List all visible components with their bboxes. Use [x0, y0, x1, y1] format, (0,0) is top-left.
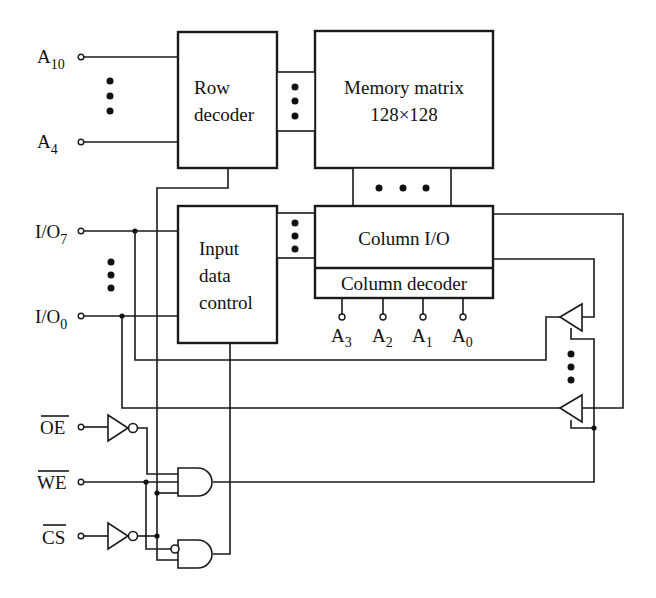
output-buffer-io0 [560, 395, 582, 422]
memory-matrix-label-1: Memory matrix [344, 77, 464, 98]
and-gate-read [178, 468, 212, 496]
pin-a0: A0 [452, 325, 473, 350]
oe-inverter-icon [108, 415, 128, 441]
row-decoder-block: Row decoder [178, 32, 277, 168]
column-bus-connector [353, 168, 451, 206]
pin-a10: A10 [37, 46, 65, 72]
and-gate-write [171, 540, 212, 568]
column-decoder-label: Column decoder [341, 273, 468, 294]
row-decoder-label-2: decoder [194, 104, 255, 125]
pin-a2: A2 [372, 325, 393, 350]
input-data-control-label-3: control [199, 292, 253, 313]
input-data-control-block: Input data control [178, 206, 277, 343]
memory-matrix-label-2: 128×128 [370, 104, 438, 125]
pin-oe: OE [40, 417, 65, 438]
row-bus-connector [277, 72, 315, 131]
sram-block-diagram: Row decoder Memory matrix 128×128 Input … [0, 0, 656, 598]
row-address-pins: A10 A4 [37, 46, 178, 157]
memory-matrix-block: Memory matrix 128×128 [315, 31, 493, 168]
input-data-control-label-1: Input [199, 238, 240, 259]
column-address-pins: A3 A2 A1 A0 [331, 298, 473, 350]
pin-we: WE [37, 472, 67, 493]
pin-a1: A1 [412, 325, 433, 350]
row-decoder-label-1: Row [194, 77, 230, 98]
column-io-block: Column I/O Column decoder [315, 206, 493, 298]
column-io-label: Column I/O [358, 228, 449, 249]
pin-a3: A3 [331, 325, 352, 350]
buffer-ellipsis [568, 351, 575, 384]
data-bus-connector [277, 213, 315, 258]
output-buffer-io7 [560, 304, 582, 331]
pin-cs: CS [42, 527, 65, 548]
pin-a4: A4 [37, 131, 58, 157]
cs-inverter-icon [108, 523, 128, 549]
pin-io7: I/O7 [35, 221, 67, 247]
pin-io0: I/O0 [35, 306, 67, 332]
input-data-control-label-2: data [199, 265, 231, 286]
